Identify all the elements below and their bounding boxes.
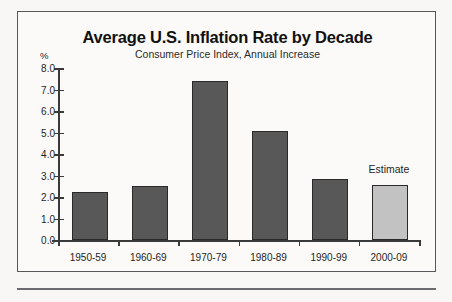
x-axis-tick [419, 240, 421, 246]
y-axis-tick [54, 133, 64, 135]
chart-subtitle: Consumer Price Index, Annual Increase [18, 48, 437, 60]
bottom-divider [17, 288, 436, 290]
y-axis-tick-label: 1.0 [41, 213, 55, 224]
x-axis-tick [299, 240, 301, 246]
x-axis-category-label: 1980-89 [250, 252, 287, 263]
y-axis-tick [54, 219, 64, 221]
y-axis-tick [54, 111, 64, 113]
y-axis-tick-label: 4.0 [41, 149, 55, 160]
x-axis-tick [58, 240, 60, 246]
chart-page: Average U.S. Inflation Rate by Decade Co… [0, 0, 452, 302]
y-axis-tick [54, 154, 64, 156]
x-axis-category-label: 1970-79 [190, 252, 227, 263]
y-axis-tick [54, 90, 64, 92]
y-axis-tick [54, 197, 64, 199]
bar [192, 81, 228, 240]
y-axis-tick-label: 5.0 [41, 127, 55, 138]
x-axis-tick [359, 240, 361, 246]
bar [312, 179, 348, 240]
y-axis-tick-label: 6.0 [41, 106, 55, 117]
y-axis-tick [54, 176, 64, 178]
y-axis-tick-label: 2.0 [41, 192, 55, 203]
y-axis-tick-label: 7.0 [41, 84, 55, 95]
bar [132, 186, 168, 240]
bar [72, 192, 108, 240]
y-axis-tick-labels: 8.07.06.05.04.03.02.01.00.0 [18, 12, 55, 273]
y-axis-tick-label: 3.0 [41, 170, 55, 181]
x-axis-tick [239, 240, 241, 246]
x-axis-tick [178, 240, 180, 246]
chart-title: Average U.S. Inflation Rate by Decade [18, 28, 437, 47]
bar-series [60, 68, 419, 240]
x-axis-category-label: 2000-09 [371, 252, 408, 263]
plot-area: 1950-591960-691970-791980-891990-992000-… [58, 68, 419, 240]
x-axis-line [52, 240, 419, 242]
x-axis-category-label: 1950-59 [70, 252, 107, 263]
x-axis-category-label: 1990-99 [310, 252, 347, 263]
x-axis-tick [118, 240, 120, 246]
bar [252, 131, 288, 240]
y-axis-tick-label: 8.0 [41, 63, 55, 74]
bar [372, 185, 408, 240]
x-axis-category-label: 1960-69 [130, 252, 167, 263]
chart-frame: Average U.S. Inflation Rate by Decade Co… [17, 11, 436, 272]
estimate-annotation-label: Estimate [368, 163, 409, 175]
